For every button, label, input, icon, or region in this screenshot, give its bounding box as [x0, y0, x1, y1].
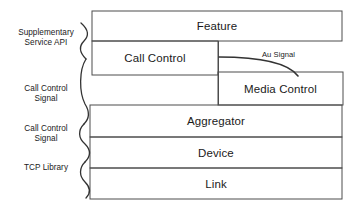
edge-label-au-signal: Au Signal	[262, 50, 295, 59]
side-label-call-control-signal-lower: Call Control Signal	[12, 124, 80, 145]
brace-call-control-signal-upper	[81, 59, 89, 124]
side-label-tcp-library: TCP Library	[12, 163, 80, 173]
side-label-supplementary-service-api: Supplementary Service API	[10, 28, 82, 49]
layer-box-aggregator	[90, 105, 342, 137]
layer-box-link	[90, 168, 342, 199]
au-signal-connector	[219, 57, 298, 76]
layer-box-feature	[92, 11, 342, 41]
layer-box-device	[90, 137, 342, 168]
side-label-call-control-signal-upper: Call Control Signal	[12, 84, 80, 105]
layer-box-call-control	[92, 41, 218, 75]
brace-call-control-signal-lower	[80, 124, 90, 162]
diagram-canvas: Feature Call Control Media Control Aggre…	[0, 0, 362, 216]
brace-tcp-library	[81, 162, 90, 198]
layer-box-media-control	[218, 72, 343, 105]
